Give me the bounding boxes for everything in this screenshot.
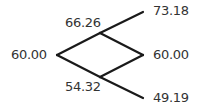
node-root-label: 60.00 [11, 48, 47, 61]
edge-down-downdown [100, 77, 143, 98]
node-up-label: 66.26 [65, 16, 101, 29]
node-upup-label: 73.18 [153, 4, 189, 17]
edge-root-down [57, 55, 100, 77]
node-middle-label: 60.00 [153, 48, 189, 61]
node-downdown-label: 49.19 [153, 91, 189, 104]
node-down-label: 54.32 [65, 80, 101, 93]
edge-down-middle [100, 55, 143, 77]
edge-up-upup [100, 12, 143, 33]
edge-root-up [57, 33, 100, 55]
edge-up-middle [100, 33, 143, 55]
